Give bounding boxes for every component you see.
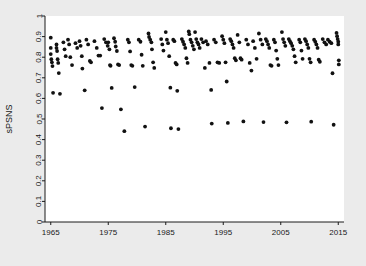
- data-point: [113, 40, 117, 44]
- data-point: [83, 88, 87, 92]
- x-tick-label: 2015: [329, 228, 347, 237]
- data-point: [315, 43, 319, 47]
- data-point: [290, 44, 294, 48]
- data-point: [262, 120, 266, 124]
- data-point: [301, 57, 305, 61]
- data-point: [177, 127, 181, 131]
- data-point: [267, 46, 271, 50]
- data-point: [78, 39, 82, 43]
- figure-container: 00.10.20.30.40.50.60.70.80.9119651975198…: [0, 0, 366, 266]
- data-point: [55, 49, 59, 53]
- data-point: [75, 46, 79, 50]
- data-point: [175, 63, 179, 67]
- data-point: [277, 63, 281, 67]
- data-point: [110, 86, 114, 90]
- data-point: [298, 40, 302, 44]
- y-tick-label: 0.2: [35, 175, 44, 187]
- data-point: [66, 38, 70, 42]
- data-point: [306, 46, 310, 50]
- data-point: [160, 43, 164, 47]
- data-point: [106, 40, 110, 44]
- data-point: [114, 45, 118, 49]
- data-point: [280, 30, 284, 34]
- data-point: [229, 39, 233, 43]
- data-point: [337, 63, 341, 67]
- data-point: [112, 36, 116, 40]
- data-point: [108, 47, 112, 51]
- data-point: [237, 40, 241, 44]
- data-point: [183, 46, 187, 50]
- data-point: [168, 86, 172, 90]
- data-point: [165, 38, 169, 42]
- data-point: [62, 40, 66, 44]
- data-point: [192, 47, 196, 51]
- data-point: [122, 129, 126, 133]
- y-tick-label: 1: [35, 13, 44, 18]
- data-point: [89, 60, 93, 64]
- scatter-chart: 00.10.20.30.40.50.60.70.80.9119651975198…: [0, 0, 366, 266]
- data-point: [266, 43, 270, 47]
- data-point: [187, 32, 191, 36]
- data-point: [292, 47, 296, 51]
- data-point: [191, 44, 195, 48]
- data-point: [49, 52, 53, 56]
- data-point: [68, 55, 72, 59]
- data-point: [51, 91, 55, 95]
- data-point: [241, 120, 245, 124]
- data-point: [305, 43, 309, 47]
- data-point: [147, 32, 151, 36]
- y-tick-label: 0: [35, 219, 44, 224]
- x-tick-label: 1965: [42, 228, 60, 237]
- data-point: [194, 37, 198, 41]
- data-point: [210, 122, 214, 126]
- data-point: [281, 37, 285, 41]
- data-point: [335, 31, 339, 35]
- data-point: [206, 43, 210, 47]
- data-point: [257, 32, 261, 36]
- data-point: [209, 88, 213, 92]
- data-point: [151, 60, 155, 64]
- data-point: [232, 46, 236, 50]
- y-tick-label: 0.5: [35, 113, 44, 125]
- data-point: [169, 126, 173, 130]
- x-tick-label: 1985: [157, 228, 175, 237]
- data-point: [119, 107, 123, 111]
- data-point: [55, 43, 59, 47]
- data-point: [193, 30, 197, 34]
- data-point: [203, 66, 207, 70]
- x-tick-label: 2005: [272, 228, 290, 237]
- data-point: [64, 54, 68, 58]
- data-point: [115, 49, 119, 53]
- data-point: [221, 38, 225, 42]
- data-point: [128, 50, 132, 54]
- data-point: [133, 85, 137, 89]
- data-point: [190, 40, 194, 44]
- data-point: [51, 64, 55, 68]
- data-point: [220, 34, 224, 38]
- data-point: [175, 89, 179, 93]
- data-point: [109, 64, 113, 68]
- y-tick-label: 0.1: [35, 195, 44, 207]
- data-point: [223, 41, 227, 45]
- data-point: [150, 47, 154, 51]
- data-point: [95, 46, 99, 50]
- data-point: [49, 46, 53, 50]
- data-point: [224, 60, 228, 64]
- x-tick-label: 1995: [214, 228, 232, 237]
- data-point: [139, 40, 143, 44]
- data-point: [131, 64, 135, 68]
- data-point: [67, 43, 71, 47]
- data-point: [214, 40, 218, 44]
- data-point: [260, 43, 264, 47]
- data-point: [159, 37, 163, 41]
- data-point: [236, 33, 240, 37]
- data-point: [248, 61, 252, 65]
- data-point: [208, 61, 212, 65]
- data-point: [240, 58, 244, 62]
- y-axis-title: sPSNS: [4, 104, 14, 133]
- data-point: [74, 41, 78, 45]
- data-point: [185, 56, 189, 60]
- data-point: [265, 39, 269, 43]
- data-point: [197, 43, 201, 47]
- data-point: [324, 43, 328, 47]
